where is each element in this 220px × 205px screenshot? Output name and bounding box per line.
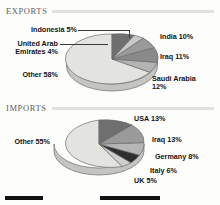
exports-label-other: Other 58% bbox=[0, 71, 58, 79]
exports-label-saudi-line2: 12% bbox=[152, 83, 166, 91]
bottom-bar-left bbox=[5, 196, 43, 200]
exports-label-uae-line2: Emirates 4% bbox=[0, 48, 58, 56]
exports-label-indonesia: Indonesia 5% bbox=[0, 26, 77, 34]
imports-label-germany: Germany 8% bbox=[155, 153, 199, 161]
imports-section: IMPORTS Other 55% USA 13% Iraq 13% Germa… bbox=[0, 99, 220, 187]
exports-section: EXPORTS Indonesia 5% United Arab Emirat bbox=[0, 0, 220, 99]
imports-label-italy: Italy 6% bbox=[150, 167, 177, 175]
uae-leader-horizontal bbox=[60, 44, 108, 45]
indonesia-leader-horizontal bbox=[78, 30, 130, 31]
indonesia-leader-vertical bbox=[129, 30, 130, 38]
bottom-bar-right bbox=[100, 196, 160, 200]
imports-pie-chart: Other 55% USA 13% Iraq 13% Germany 8% It… bbox=[0, 99, 220, 187]
exports-label-india: India 10% bbox=[160, 33, 193, 41]
imports-label-iraq: Iraq 13% bbox=[152, 136, 182, 144]
imports-label-other: Other 55% bbox=[0, 138, 50, 146]
imports-label-usa: USA 13% bbox=[134, 115, 165, 123]
exports-pie-chart: Indonesia 5% United Arab Emirates 4% Oth… bbox=[0, 0, 220, 99]
exports-label-iraq: Iraq 11% bbox=[160, 53, 189, 61]
imports-label-uk: UK 5% bbox=[134, 177, 157, 185]
